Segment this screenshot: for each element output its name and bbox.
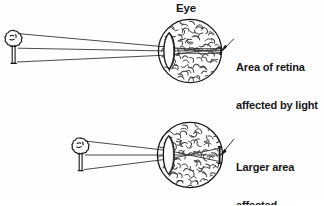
leader-arrow-bottom	[220, 139, 234, 156]
eye-lens-bottom	[163, 136, 174, 175]
tree-far-icon	[5, 30, 22, 63]
annotation-bottom-line2: affected	[236, 199, 294, 206]
annotation-top-line2: affected by light	[236, 99, 318, 112]
annotation-area-of-retina: Area of retina affected by light	[236, 36, 318, 124]
annotation-larger-area: Larger area affected	[236, 136, 294, 205]
annotation-bottom-line1: Larger area	[236, 161, 294, 174]
eye-lens-top	[164, 33, 175, 69]
tree-near-icon	[72, 138, 89, 171]
leader-arrow-top	[221, 39, 234, 52]
eye-title-label: Eye	[176, 2, 196, 15]
light-rays-near	[84, 141, 220, 170]
panel-near-object	[72, 114, 234, 195]
panel-far-object	[5, 14, 234, 93]
annotation-top-line1: Area of retina	[236, 61, 318, 74]
